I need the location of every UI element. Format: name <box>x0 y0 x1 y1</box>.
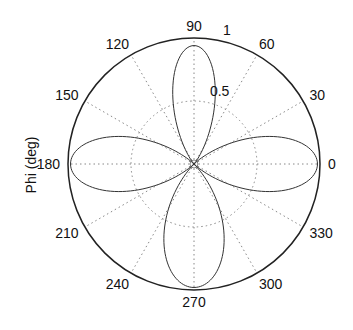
angular-tick-label: 90 <box>186 18 202 34</box>
angular-tick-label: 30 <box>310 87 326 103</box>
y-axis-label: Phi (deg) <box>23 137 39 194</box>
angular-tick-label: 240 <box>106 276 130 292</box>
angular-tick-label: 180 <box>37 156 61 172</box>
angular-grid-line <box>194 101 303 164</box>
angular-tick-label: 120 <box>106 36 130 52</box>
angular-tick-label: 300 <box>259 276 283 292</box>
angular-tick-label: 330 <box>310 225 334 241</box>
angular-grid-line <box>85 164 194 227</box>
angular-tick-label: 0 <box>328 156 336 172</box>
angular-tick-label: 60 <box>259 36 275 52</box>
angular-grid-line <box>194 164 257 273</box>
angular-tick-label: 210 <box>55 225 79 241</box>
angular-grid-line <box>194 164 303 227</box>
angular-tick-label: 270 <box>182 294 206 310</box>
angular-tick-label: 150 <box>55 87 79 103</box>
radial-tick-label: 0.5 <box>210 83 230 99</box>
polar-plot: 0306090120150180210240270300330 0.51 Phi… <box>0 0 353 330</box>
angular-tick-labels: 0306090120150180210240270300330 <box>37 18 336 310</box>
radial-tick-labels: 0.51 <box>210 22 231 100</box>
angular-grid-line <box>85 101 194 164</box>
radial-tick-label: 1 <box>223 22 231 38</box>
angular-grid-line <box>131 164 194 273</box>
